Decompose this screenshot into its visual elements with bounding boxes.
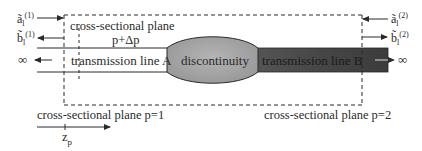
label-b2: b̃l(2): [391, 31, 409, 47]
diagram-canvas: [0, 0, 422, 151]
label-transmission-line-a: transmission line A: [71, 54, 171, 67]
label-a1: ãl(1): [17, 12, 34, 28]
label-plane-delta: p+Δp: [112, 34, 140, 47]
label-plane-p1: cross-sectional plane p=1: [37, 109, 164, 122]
label-transmission-line-b: transmission line B: [262, 54, 362, 67]
label-b1: b̃l(1): [17, 31, 35, 47]
label-plane-p2: cross-sectional plane p=2: [264, 109, 391, 122]
label-a2: ãl(2): [391, 12, 408, 28]
label-infinity-left: ∞: [18, 53, 27, 66]
label-z-axis: zp: [62, 131, 72, 147]
label-discontinuity: discontinuity: [181, 54, 249, 67]
label-plane-top: cross-sectional plane: [70, 20, 174, 33]
label-infinity-right: ∞: [398, 53, 407, 66]
